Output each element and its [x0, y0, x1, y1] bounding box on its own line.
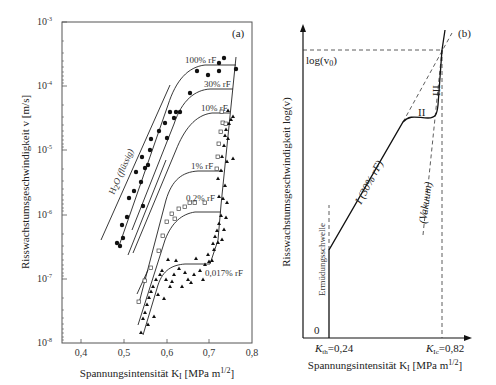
panel-a-curves — [101, 57, 236, 335]
svg-text:10-6: 10-6 — [37, 209, 52, 220]
curve-h2o-liquid — [101, 85, 170, 240]
figure-canvas: 10-3 10-4 10-5 10-6 10-7 10-8 0,4 0,5 0,… — [0, 0, 496, 385]
panel-a-x-tick-labels: 0,4 0,5 0,6 0,7 0,8 — [75, 347, 259, 358]
panel-a-x-ticks — [81, 339, 209, 343]
panel-a-x-axis-title: Spannungsintensität KI [MPa m1/2] — [80, 366, 234, 381]
svg-text:10-7: 10-7 — [37, 273, 52, 284]
kth-label: Kth=0,24 — [314, 342, 354, 356]
panel-b-y-axis-title: Risswachstumsgeschwindigkeit log(v) — [280, 97, 293, 267]
panel-a-y-tick-labels: 10-3 10-4 10-5 10-6 10-7 10-8 — [37, 16, 52, 348]
svg-text:0,5: 0,5 — [118, 347, 131, 358]
svg-text:30% rF: 30% rF — [204, 79, 231, 89]
svg-text:0,6: 0,6 — [161, 347, 174, 358]
region-1-extension — [403, 33, 452, 122]
svg-text:10-8: 10-8 — [37, 337, 52, 348]
svg-text:10-3: 10-3 — [37, 16, 52, 27]
region-3-label: III — [430, 85, 442, 96]
svg-text:1% rF: 1% rF — [191, 161, 213, 171]
log-v0-label: log(v0) — [306, 54, 337, 68]
panel-a-y-axis-title: Risswachstumsgeschwindigkeit v [m/s] — [19, 95, 31, 269]
panel-b-label: (b) — [458, 27, 471, 40]
panel-b: Risswachstumsgeschwindigkeit log(v) Span… — [280, 27, 471, 373]
svg-text:0,017% rF: 0,017% rF — [205, 268, 243, 278]
vacuum-label: (Vakuum) — [416, 181, 435, 225]
region-2-label: II — [418, 106, 426, 118]
threshold-label: Ermüdungsschwelle — [317, 223, 327, 296]
svg-text:10-5: 10-5 — [37, 144, 52, 155]
curve-0017-rh — [143, 264, 210, 335]
svg-text:100% rF: 100% rF — [185, 55, 216, 65]
svg-text:0,7: 0,7 — [203, 347, 216, 358]
kic-label: KIc=0,82 — [425, 342, 464, 356]
origin-label: 0 — [314, 324, 320, 336]
curve-h2o-lower — [128, 160, 166, 255]
svg-text:0,4: 0,4 — [75, 347, 88, 358]
svg-text:0,8: 0,8 — [246, 347, 259, 358]
svg-text:10-4: 10-4 — [37, 80, 52, 91]
panel-a-y-ticks — [62, 22, 67, 340]
panel-b-x-axis-title: Spannungsintensität KI [MPa m1/2] — [308, 358, 462, 373]
region-1-label: I (30% rF) — [352, 158, 386, 207]
panel-a: 10-3 10-4 10-5 10-6 10-7 10-8 0,4 0,5 0,… — [19, 16, 258, 381]
panel-a-label: (a) — [232, 27, 245, 40]
